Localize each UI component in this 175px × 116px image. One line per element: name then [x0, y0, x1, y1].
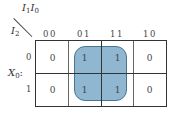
- row-header-0: 0: [26, 52, 33, 62]
- var-i2-sub: 2: [15, 30, 19, 38]
- row-header-1: 1: [26, 84, 33, 94]
- cell-r0-c11: 1: [101, 41, 134, 74]
- cell-r0-c10: 0: [133, 41, 166, 74]
- var-i0-sub: 0: [34, 7, 38, 15]
- output-label: X0:: [8, 68, 23, 81]
- cell-r1-c11: 1: [101, 73, 134, 106]
- cell-r1-c00: 0: [36, 73, 69, 106]
- row-variable-label: I2: [11, 26, 19, 39]
- col-header-00: 00: [43, 29, 57, 39]
- column-variables-label: I1I0: [22, 3, 39, 16]
- cell-r1-c01: 1: [68, 73, 101, 106]
- col-header-01: 01: [77, 29, 91, 39]
- col-header-10: 10: [143, 29, 157, 39]
- output-colon: :: [20, 67, 23, 78]
- cell-r0-c01: 1: [68, 41, 101, 74]
- kmap-grid: 0 1 1 0 0 1 1 0: [35, 40, 167, 107]
- col-header-11: 11: [110, 29, 124, 39]
- cell-r1-c10: 0: [133, 73, 166, 106]
- cell-r0-c00: 0: [36, 41, 69, 74]
